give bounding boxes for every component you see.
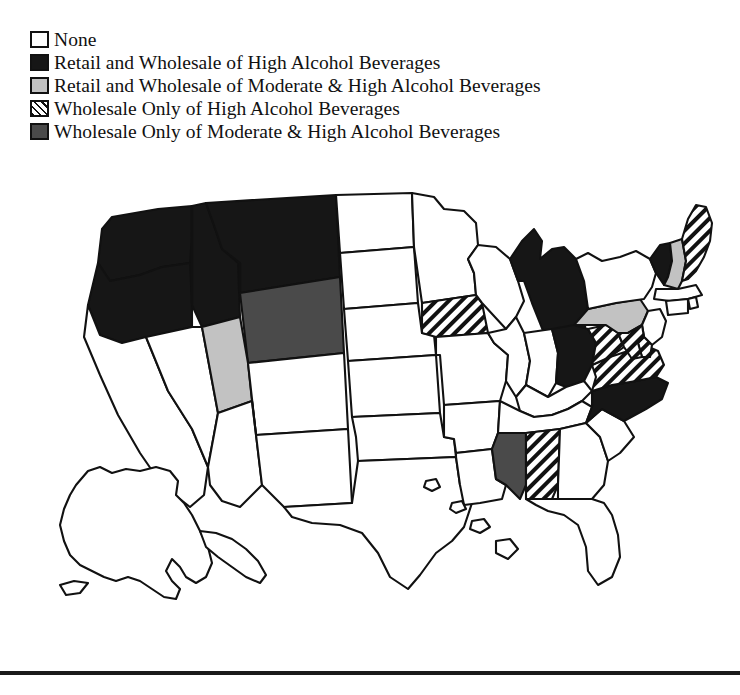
map-legend: None Retail and Wholesale of High Alcoho…: [30, 28, 650, 143]
legend-item-label: Wholesale Only of High Alcohol Beverages: [54, 98, 400, 119]
state-IA: [422, 295, 488, 337]
state-AL: [526, 429, 560, 499]
legend-item-label: Retail and Wholesale of High Alcohol Bev…: [54, 52, 440, 73]
state-ME: [682, 205, 712, 281]
legend-item-label: None: [54, 29, 96, 50]
state-HI: [424, 479, 440, 491]
legend-item: None: [30, 28, 650, 51]
legend-swatch-wholesale-mod-high: [30, 123, 49, 140]
state-FL: [526, 499, 620, 585]
state-SD: [340, 247, 418, 309]
legend-item: Retail and Wholesale of High Alcohol Bev…: [30, 51, 650, 74]
state-OH: [552, 325, 596, 387]
legend-swatch-retail-mod-high: [30, 77, 49, 94]
alaska-aleutians: [60, 581, 88, 595]
bottom-divider-rule: [0, 671, 740, 675]
state-CT: [666, 299, 688, 315]
legend-item-label: Retail and Wholesale of Moderate & High …: [54, 75, 541, 96]
hawaii-island-3: [470, 519, 490, 533]
state-MN: [412, 193, 478, 303]
state-CO: [248, 353, 348, 435]
us-map-svg: [40, 185, 720, 655]
legend-item: Retail and Wholesale of Moderate & High …: [30, 74, 650, 97]
state-KS: [348, 355, 440, 417]
state-NY: [576, 251, 656, 309]
legend-item: Wholesale Only of High Alcohol Beverages: [30, 97, 650, 120]
legend-item-label: Wholesale Only of Moderate & High Alcoho…: [54, 121, 500, 142]
legend-swatch-none: [30, 31, 49, 48]
state-OK: [352, 413, 456, 461]
us-choropleth-map: [40, 185, 720, 655]
state-WY: [240, 277, 344, 363]
hawaii-island-4: [496, 539, 518, 559]
legend-swatch-retail-high: [30, 54, 49, 71]
legend-swatch-wholesale-high: [30, 100, 49, 117]
legend-item: Wholesale Only of Moderate & High Alcoho…: [30, 120, 650, 143]
state-RI: [688, 297, 698, 309]
state-ND: [336, 193, 414, 253]
